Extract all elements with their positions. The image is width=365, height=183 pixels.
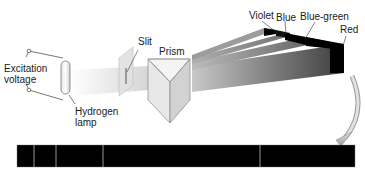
violet-beam-end [264, 28, 276, 36]
violet-label: Violet [249, 10, 274, 21]
excitation-label-line2: voltage [4, 74, 47, 85]
hydrogen-spectrum-diagram: Excitation voltage Hydrogen lamp Slit Pr… [0, 0, 365, 183]
diagram-canvas [0, 0, 365, 183]
red-label: Red [340, 24, 358, 35]
prism [148, 59, 190, 123]
lamp-leader-line [69, 95, 75, 104]
lamp-label-line1: Hydrogen [75, 106, 118, 117]
slit-label: Slit [138, 36, 152, 47]
blue-label: Blue [276, 12, 296, 23]
excitation-label-line1: Excitation [4, 63, 47, 74]
blue-green-label: Blue-green [300, 11, 349, 22]
line-spectrum [17, 145, 355, 167]
excitation-voltage-label: Excitation voltage [4, 63, 47, 85]
dispersed-beams [192, 28, 344, 92]
curved-arrow [336, 76, 358, 146]
prism-label: Prism [159, 46, 185, 57]
red-beam-end [330, 45, 344, 73]
lamp-label-line2: lamp [75, 117, 118, 128]
hydrogen-lamp-label: Hydrogen lamp [75, 106, 118, 128]
